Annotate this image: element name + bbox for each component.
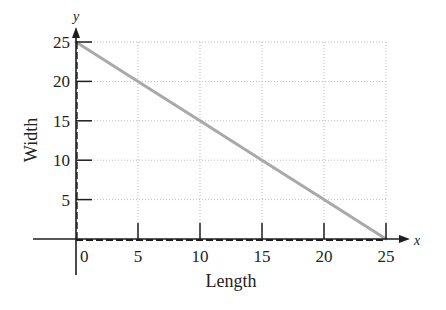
- y-tick-label: 10: [53, 151, 70, 170]
- x-tick-label: 10: [192, 247, 209, 266]
- y-tick-label: 5: [62, 191, 71, 210]
- y-axis-arrow-icon: [72, 27, 80, 38]
- y-tick-label: 20: [53, 72, 70, 91]
- x-tick-label: 25: [378, 247, 395, 266]
- tick-labels: 0510152025510152025: [53, 33, 395, 266]
- x-axis-variable: x: [413, 233, 421, 248]
- x-tick-label: 5: [134, 247, 143, 266]
- y-tick-label: 25: [53, 33, 70, 52]
- y-axis-title: Width: [21, 118, 41, 162]
- x-tick-label: 0: [80, 247, 89, 266]
- x-axis-arrow-icon: [399, 235, 410, 243]
- x-axis-title: Length: [206, 271, 257, 291]
- y-tick-label: 15: [53, 112, 70, 131]
- y-axis-variable: y: [71, 9, 80, 24]
- x-tick-label: 20: [316, 247, 333, 266]
- data-series: [76, 42, 386, 239]
- axes: x y: [33, 9, 421, 275]
- chart: x y 0510152025510152025 Length Width: [0, 0, 446, 310]
- x-tick-label: 15: [254, 247, 271, 266]
- series-line: [76, 42, 386, 239]
